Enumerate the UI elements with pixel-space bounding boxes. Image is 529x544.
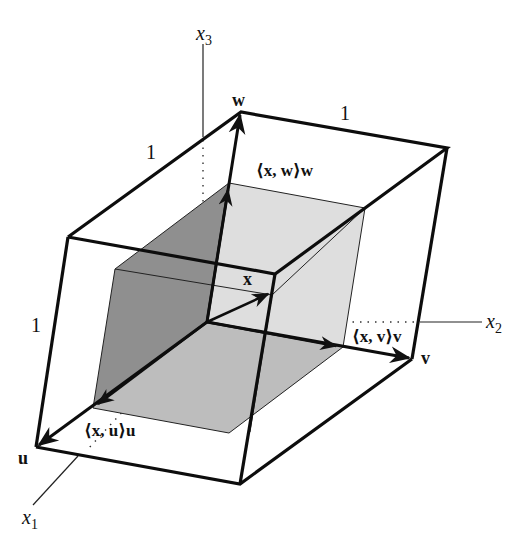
x1-label: x1 [21,506,38,532]
u-label: u [18,448,28,468]
x2-label: x2 [485,310,502,336]
edge-length-left-side: 1 [31,314,41,336]
edge-length-left-top: 1 [146,141,156,163]
v-label: v [421,348,430,368]
proj-u-label: ⟨x, u⟩u [84,421,135,440]
edge-length-top: 1 [340,102,350,124]
projection-box [93,183,365,433]
proj-v-label: ⟨x, v⟩v [352,327,402,346]
w-label: w [232,90,245,110]
projection-diagram: x3 x2 x1 w v u x ⟨x, w⟩w ⟨x, v⟩v ⟨x, u⟩u… [0,0,529,544]
x-label: x [243,269,252,289]
edge-left [36,237,68,447]
edge-right [412,148,447,359]
proj-w-label: ⟨x, w⟩w [256,161,314,180]
x1-axis [33,456,78,505]
